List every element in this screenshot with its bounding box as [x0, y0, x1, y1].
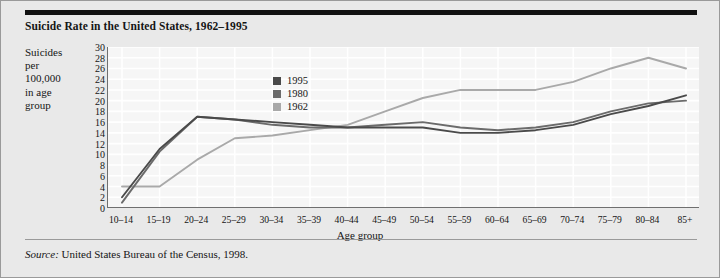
y-tick-label: 0 — [100, 203, 105, 214]
x-axis-tick-labels: 10–1415–1920–2425–2930–3435–3940–4445–49… — [107, 214, 699, 228]
plot-area — [107, 47, 699, 208]
x-tick-label: 40–44 — [335, 214, 359, 225]
x-tick-label: 80–84 — [635, 214, 659, 225]
legend-label: 1962 — [287, 101, 308, 114]
y-axis-caption-line: Suicides — [25, 46, 83, 59]
y-tick-label: 18 — [95, 106, 105, 117]
y-tick-label: 20 — [95, 95, 105, 106]
y-tick-label: 26 — [95, 63, 105, 74]
y-tick-label: 2 — [100, 192, 105, 203]
x-tick-label: 10–14 — [109, 214, 133, 225]
legend-swatch-icon — [273, 77, 281, 85]
y-tick-label: 8 — [100, 160, 105, 171]
y-tick-label: 28 — [95, 52, 105, 63]
y-axis-caption-line: 100,000 — [25, 72, 83, 85]
x-tick-label: 60–64 — [485, 214, 509, 225]
x-tick-label: 70–74 — [560, 214, 584, 225]
footer-rule — [25, 239, 697, 240]
y-axis-caption-line: group — [25, 99, 83, 112]
chart-svg — [108, 47, 699, 208]
x-tick-label: 55–59 — [447, 214, 471, 225]
y-tick-label: 22 — [95, 84, 105, 95]
y-tick-label: 16 — [95, 117, 105, 128]
legend-entry: 1995 — [273, 75, 308, 88]
y-axis-tick-labels: 024681012141618202224262830 — [85, 47, 105, 208]
x-tick-label: 30–34 — [259, 214, 283, 225]
series-line — [122, 95, 686, 197]
y-tick-label: 24 — [95, 74, 105, 85]
y-axis-caption-line: in age — [25, 86, 83, 99]
x-tick-label: 20–24 — [184, 214, 208, 225]
y-tick-label: 12 — [95, 138, 105, 149]
source-label: Source: — [25, 248, 59, 260]
y-tick-label: 10 — [95, 149, 105, 160]
x-tick-label: 85+ — [677, 214, 692, 225]
plot-wrap: 024681012141618202224262830 — [85, 47, 699, 212]
y-tick-label: 14 — [95, 127, 105, 138]
top-rule — [25, 10, 697, 15]
y-tick-label: 6 — [100, 170, 105, 181]
legend-swatch-icon — [273, 103, 281, 111]
x-tick-label: 15–19 — [147, 214, 171, 225]
x-tick-label: 75–79 — [598, 214, 622, 225]
x-tick-label: 45–49 — [372, 214, 396, 225]
figure-container: Suicide Rate in the United States, 1962–… — [0, 0, 720, 278]
x-tick-label: 50–54 — [410, 214, 434, 225]
x-tick-label: 65–69 — [523, 214, 547, 225]
legend-entry: 1980 — [273, 88, 308, 101]
y-tick-label: 4 — [100, 181, 105, 192]
source-note: Source: United States Bureau of the Cens… — [25, 248, 248, 260]
x-tick-label: 25–29 — [222, 214, 246, 225]
legend-entry: 1962 — [273, 101, 308, 114]
legend-label: 1980 — [287, 88, 308, 101]
chart-legend: 199519801962 — [273, 75, 308, 113]
y-axis-caption-line: per — [25, 59, 83, 72]
x-tick-label: 35–39 — [297, 214, 321, 225]
chart-title: Suicide Rate in the United States, 1962–… — [25, 20, 248, 32]
y-axis-caption: Suicidesper100,000in agegroup — [25, 46, 83, 112]
source-text: United States Bureau of the Census, 1998… — [62, 248, 248, 260]
y-tick-label: 30 — [95, 42, 105, 53]
legend-swatch-icon — [273, 90, 281, 98]
legend-label: 1995 — [287, 75, 308, 88]
